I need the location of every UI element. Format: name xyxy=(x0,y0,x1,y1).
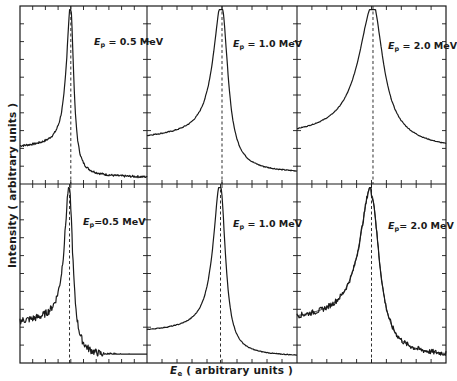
panel-label-bottom-left: Ep=0.5 MeV xyxy=(83,216,146,229)
panel-label-top-left: Ep = 0.5 MeV xyxy=(94,36,163,49)
y-axis-label: Intensity ( arbitrary units ) xyxy=(6,118,20,268)
label-value: =0.5 MeV xyxy=(94,216,145,227)
x-axis-unit: ( arbitrary units ) xyxy=(182,364,293,376)
panel-label-top-middle: Ep = 1.0 MeV xyxy=(233,38,302,51)
label-value: = 1.0 MeV xyxy=(244,38,302,49)
x-axis-label: Ee ( arbitrary units ) xyxy=(170,364,293,378)
label-value: = 2.0 MeV xyxy=(399,40,457,51)
label-value: = 1.0 MeV xyxy=(244,218,302,229)
panel-label-bottom-right: Ep= 2.0 MeV xyxy=(388,220,454,233)
panel-frames xyxy=(20,6,446,363)
label-value: = 0.5 MeV xyxy=(105,36,163,47)
label-value: = 2.0 MeV xyxy=(399,220,454,231)
panel-label-top-right: Ep = 2.0 MeV xyxy=(388,40,457,53)
panel-label-bottom-middle: Ep = 1.0 MeV xyxy=(233,218,302,231)
